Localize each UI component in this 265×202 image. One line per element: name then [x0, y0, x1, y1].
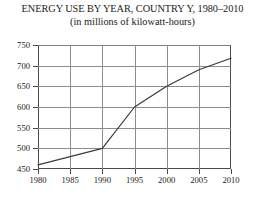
y-axis-tick-label: 500 — [17, 144, 30, 153]
y-axis-tick-label: 450 — [17, 165, 30, 174]
chart-title-block: ENERGY USE BY YEAR, COUNTRY Y, 1980–2010… — [0, 2, 265, 28]
x-axis-tick — [135, 169, 136, 174]
y-axis-tick-label: 550 — [17, 123, 30, 132]
x-axis-tick — [38, 169, 39, 174]
chart-subtitle: (in millions of kilowatt-hours) — [0, 15, 265, 28]
x-axis-tick-label: 2010 — [222, 176, 239, 185]
x-axis-tick — [231, 169, 232, 174]
x-axis-tick-label: 1990 — [94, 176, 111, 185]
x-axis-tick — [70, 169, 71, 174]
y-axis-tick-label: 600 — [17, 103, 30, 112]
energy-use-line-chart: ENERGY USE BY YEAR, COUNTRY Y, 1980–2010… — [0, 0, 265, 202]
x-axis-tick-label: 1985 — [62, 176, 79, 185]
x-axis-tick — [199, 169, 200, 174]
x-axis-tick — [102, 169, 103, 174]
y-axis-tick-label: 700 — [17, 61, 30, 70]
x-axis-tick-label: 2000 — [158, 176, 175, 185]
page-title: ENERGY USE BY YEAR, COUNTRY Y, 1980–2010 — [0, 2, 265, 15]
data-series-line — [38, 45, 231, 169]
x-axis-tick-label: 2005 — [190, 176, 207, 185]
y-axis-tick-label: 650 — [17, 82, 30, 91]
y-axis-tick-label: 750 — [17, 41, 30, 50]
plot-area: 450500550600650700750 198019851990199520… — [38, 45, 231, 169]
x-axis-tick-label: 1995 — [126, 176, 143, 185]
x-axis-tick-label: 1980 — [29, 176, 46, 185]
x-axis-tick — [167, 169, 168, 174]
